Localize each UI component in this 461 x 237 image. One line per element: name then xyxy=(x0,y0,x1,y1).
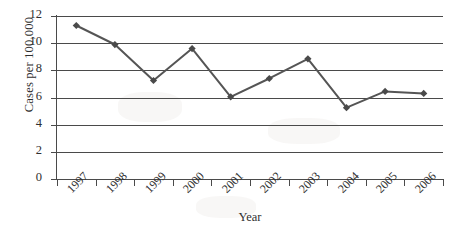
x-axis-tick xyxy=(404,179,405,186)
x-axis-tick xyxy=(250,179,251,186)
x-axis-title: Year xyxy=(56,210,444,225)
data-point-marker xyxy=(266,75,273,82)
x-axis-tick xyxy=(366,179,367,186)
x-axis-tick xyxy=(57,179,58,186)
x-axis-tick xyxy=(443,179,444,186)
x-axis-tick xyxy=(96,179,97,186)
data-point-marker xyxy=(420,90,427,97)
data-point-marker xyxy=(73,22,80,29)
data-point-marker xyxy=(382,88,389,95)
line-chart-figure: Cases per 100,000 121086420 199719981999… xyxy=(0,0,461,237)
x-axis-tick xyxy=(134,179,135,186)
x-axis-tick xyxy=(211,179,212,186)
x-axis-tick xyxy=(289,179,290,186)
data-series-layer xyxy=(0,0,461,237)
x-axis-tick xyxy=(173,179,174,186)
series-line xyxy=(76,26,423,108)
x-axis-tick xyxy=(327,179,328,186)
